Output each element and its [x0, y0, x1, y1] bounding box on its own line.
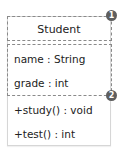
attribute-name: name : String	[14, 53, 85, 65]
callout-badge-2: 2	[106, 90, 117, 101]
callout-badge-1: 1	[106, 10, 117, 21]
method-study: +study() : void	[14, 104, 93, 116]
attribute-grade: grade : int	[14, 77, 68, 89]
method-test: +test() : int	[14, 128, 75, 140]
class-name: Student	[7, 24, 111, 36]
